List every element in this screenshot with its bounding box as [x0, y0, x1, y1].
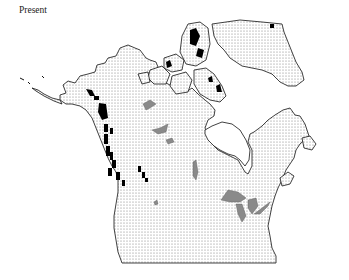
aleutian-islands — [20, 76, 44, 84]
greenland-ice-patch — [270, 24, 274, 28]
newfoundland — [302, 136, 316, 150]
greenland — [212, 20, 304, 86]
map — [0, 0, 349, 280]
alaska-peninsula — [32, 88, 62, 104]
